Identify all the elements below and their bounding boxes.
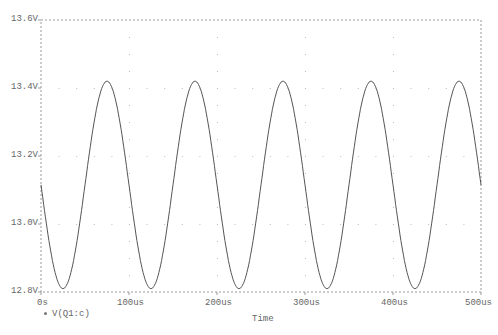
axis-ticks	[38, 20, 481, 295]
x-axis-title: Time	[252, 314, 274, 324]
x-tick-200us: 200us	[205, 298, 232, 308]
plot-area	[0, 0, 498, 335]
plot-border	[41, 20, 481, 292]
legend-label: V(Q1:c)	[52, 309, 90, 319]
grid	[59, 37, 465, 276]
legend: V(Q1:c)	[44, 309, 90, 319]
legend-marker-icon	[44, 312, 47, 315]
y-tick-13-0: 13.0V	[0, 218, 38, 228]
x-tick-400us: 400us	[381, 298, 408, 308]
x-tick-100us: 100us	[117, 298, 144, 308]
x-tick-300us: 300us	[293, 298, 320, 308]
y-tick-13-4: 13.4V	[0, 82, 38, 92]
x-tick-0: 0s	[37, 298, 48, 308]
trace-v-q1-c	[41, 81, 481, 288]
y-tick-13-6: 13.6V	[0, 14, 38, 24]
y-tick-12-8: 12.8V	[0, 286, 38, 296]
x-tick-500us: 500us	[465, 298, 492, 308]
y-tick-13-2: 13.2V	[0, 150, 38, 160]
